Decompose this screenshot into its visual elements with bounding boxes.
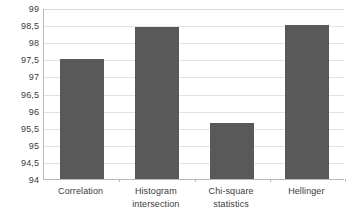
y-axis-tick-label: 96,5 [0,90,39,100]
x-axis-category-label: Chi-squarestatistics [194,185,269,219]
x-axis-category-label-line1: Chi-square [209,186,254,196]
y-axis-tick-label: 98,5 [0,21,39,31]
x-axis-tick-mark [345,179,346,182]
gridline [44,9,344,10]
x-axis-category-label: Correlation [43,185,118,219]
y-axis-tick-label: 94 [0,175,39,185]
y-axis-tick-label: 99 [0,4,39,14]
y-axis-tick-label: 96 [0,107,39,117]
x-axis-category-label: Histogramintersection [118,185,193,219]
y-axis-tick-label: 97 [0,72,39,82]
x-axis-tick-mark [119,179,120,182]
plot-area [43,9,344,180]
bar-chart: 9998,59897,59796,59695,59594,594 Correla… [0,0,357,220]
y-axis-tick-label: 95,5 [0,124,39,134]
x-axis-category-label-line2: statistics [194,198,269,211]
y-axis-tick-label: 94,5 [0,158,39,168]
x-axis-category-label: Hellinger [269,185,344,219]
bar [285,25,329,179]
bar [135,27,179,179]
x-axis-category-label-line1: Correlation [58,186,103,196]
bar [210,123,254,179]
y-axis-tick-label: 97,5 [0,55,39,65]
bar [60,59,104,179]
x-axis-category-label-line1: Hellinger [288,186,324,196]
y-axis: 9998,59897,59796,59695,59594,594 [0,0,39,200]
x-axis-category-label-line2: intersection [118,198,193,211]
y-axis-tick-label: 98 [0,38,39,48]
x-axis-category-label-line1: Histogram [135,186,177,196]
x-axis: CorrelationHistogramintersectionChi-squa… [43,185,344,219]
x-axis-tick-mark [270,179,271,182]
y-axis-tick-label: 95 [0,141,39,151]
x-axis-tick-mark [195,179,196,182]
